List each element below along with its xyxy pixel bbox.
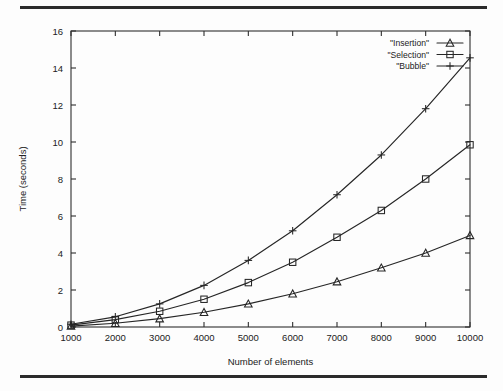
legend-entry: "Selection" <box>388 50 463 60</box>
legend-label: "Selection" <box>388 50 429 60</box>
series-line-3 <box>71 58 470 324</box>
y-tick-label: 0 <box>58 322 63 333</box>
data-point <box>200 282 208 290</box>
x-tick-label: 1000 <box>60 332 81 343</box>
legend-label: "Bubble" <box>396 61 429 71</box>
y-tick-label: 14 <box>52 63 63 74</box>
x-tick-label: 10000 <box>457 332 483 343</box>
y-tick-label: 10 <box>52 137 63 148</box>
x-tick-label: 4000 <box>193 332 214 343</box>
x-tick-label: 6000 <box>282 332 303 343</box>
chart-figure: 1000200030004000500060007000800090001000… <box>0 14 503 370</box>
legend-marker <box>446 62 454 70</box>
figure-page: 1000200030004000500060007000800090001000… <box>0 0 503 391</box>
x-tick-label: 5000 <box>238 332 259 343</box>
x-axis-title: Number of elements <box>228 356 314 367</box>
series-line-2 <box>71 145 470 325</box>
y-tick-label: 2 <box>58 285 63 296</box>
y-axis-title: Time (seconds) <box>17 146 28 211</box>
top-horizontal-rule <box>20 6 487 9</box>
data-point <box>156 300 164 308</box>
legend-entry: "Bubble" <box>396 61 463 71</box>
x-tick-label: 8000 <box>371 332 392 343</box>
y-tick-label: 12 <box>52 100 63 111</box>
plot-frame <box>71 31 470 327</box>
legend-label: "Insertion" <box>390 38 429 48</box>
bottom-horizontal-rule <box>20 375 487 378</box>
legend-entry: "Insertion" <box>390 38 463 48</box>
y-tick-label: 16 <box>52 26 63 37</box>
x-tick-label: 3000 <box>149 332 170 343</box>
y-tick-label: 8 <box>58 174 63 185</box>
y-tick-label: 6 <box>58 211 63 222</box>
x-tick-label: 9000 <box>415 332 436 343</box>
x-tick-label: 7000 <box>326 332 347 343</box>
data-point <box>245 257 253 265</box>
line-chart: 1000200030004000500060007000800090001000… <box>0 14 503 370</box>
x-tick-label: 2000 <box>105 332 126 343</box>
y-tick-label: 4 <box>58 248 63 259</box>
